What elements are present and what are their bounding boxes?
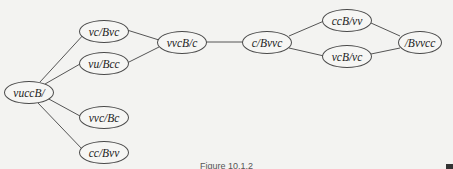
- state-node-vuBcc: vu/Bcc: [79, 52, 129, 75]
- state-node-Bvvcc: /Bvvcc: [398, 31, 442, 54]
- figure-caption: Figure 10.1.2: [200, 161, 253, 169]
- edge-vuBcc-vvcBc: [127, 47, 159, 63]
- edge-cBvvc-ccBvv: [289, 21, 324, 36]
- page-corner-mark: [446, 164, 453, 169]
- state-node-ccBvv-right: ccB/vv: [322, 9, 372, 32]
- state-node-vuccB: vuccB/: [4, 81, 54, 104]
- state-node-vcBvc-right: vcB/vc: [322, 45, 372, 68]
- state-node-ccBvv: cc/Bvv: [79, 141, 129, 164]
- edge-vuccB-ccBvv: [38, 103, 83, 150]
- state-node-vvcBc: vvcB/c: [157, 31, 207, 54]
- edge-ccBvv-Bvvcc: [371, 23, 400, 36]
- edge-vcBvc-vvcBc: [127, 30, 159, 40]
- state-node-vvcBc: vvc/Bc: [79, 106, 129, 129]
- edge-cBvvc-vcBvc: [289, 48, 324, 56]
- edge-vuccB-vuBcc: [45, 64, 80, 84]
- edge-vuccB-vvcBc: [47, 98, 80, 116]
- edge-vuccB-vcBvc: [40, 33, 85, 82]
- state-node-vcBvc: vc/Bvc: [79, 20, 129, 43]
- edge-vcBvc-Bvvcc: [371, 48, 400, 54]
- state-node-cBvvc: c/Bvvc: [242, 31, 292, 54]
- edge-layer: [0, 0, 453, 169]
